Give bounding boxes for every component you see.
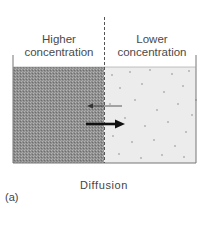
higher-concentration-label: Higher concentration: [15, 33, 103, 59]
caption: Diffusion: [0, 179, 208, 191]
high-concentration-region: [13, 67, 104, 163]
low-concentration-region: [104, 67, 196, 163]
panel-label: (a): [5, 191, 18, 203]
lower-concentration-label: Lower concentration: [108, 33, 196, 59]
